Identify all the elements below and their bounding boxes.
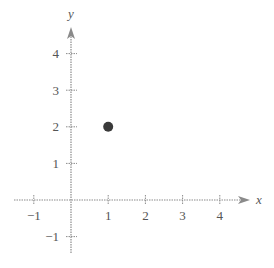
x-tick-label: 3 [179,208,186,223]
x-axis-label: x [255,192,262,207]
data-point [103,122,113,132]
x-tick-label: 4 [217,208,224,223]
x-tick-label: −1 [27,208,41,223]
tick-labels: −11234−11234 [27,46,224,244]
data-points [103,122,113,132]
axes [14,27,250,253]
y-tick-label: 2 [53,119,60,134]
y-axis-label: y [66,6,74,21]
y-tick-label: −1 [45,229,59,244]
y-tick-label: 3 [53,83,60,98]
coordinate-plane: −11234−11234 x y [0,0,274,268]
x-tick-label: 1 [105,208,112,223]
x-tick-label: 2 [142,208,149,223]
y-tick-label: 4 [53,46,60,61]
axis-ticks [34,54,220,237]
y-tick-label: 1 [53,156,60,171]
